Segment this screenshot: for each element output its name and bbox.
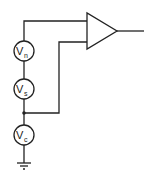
svg-text:V: V <box>16 45 24 57</box>
svg-text:V: V <box>16 83 24 95</box>
source-vs: V s <box>14 79 34 99</box>
junction-dot <box>22 111 26 115</box>
source-vc: V c <box>14 125 34 145</box>
svg-text:V: V <box>16 129 24 141</box>
svg-text:s: s <box>24 90 28 97</box>
svg-text:n: n <box>24 52 28 59</box>
amplifier-triangle <box>87 13 117 49</box>
svg-text:c: c <box>24 136 28 143</box>
circuit-diagram: V n V s V c <box>0 0 146 179</box>
source-vn: V n <box>14 41 34 61</box>
ground-icon <box>17 163 31 169</box>
wire-top-input <box>24 21 87 41</box>
